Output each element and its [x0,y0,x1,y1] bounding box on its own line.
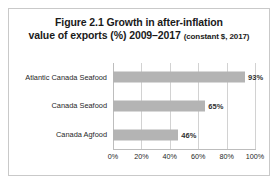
bar-atlantic-canada-seafood [113,72,245,83]
category-label-canada-seafood: Canada Seafood [52,92,107,121]
x-axis-tick-labels: 0%20%40%60%80%100% [113,152,255,166]
x-tick-label-100pct: 100% [246,152,264,161]
x-axis-line [113,149,256,150]
bar-value-canada-seafood: 65% [205,101,223,110]
bar-value-atlantic-canada-seafood: 93% [245,73,263,82]
bars-layer: 93% 65% 46% [113,63,255,149]
chart-title: Figure 2.1 Growth in after-inflation val… [9,16,269,43]
bar-value-canada-agfood: 46% [178,130,196,139]
figure-frame: Figure 2.1 Growth in after-inflation val… [8,8,270,176]
category-axis-labels: Atlantic Canada Seafood Canada Seafood C… [13,63,111,149]
chart-title-line-2: value of exports (%) 2009–2017 (constant… [9,29,269,43]
bar-canada-agfood [113,129,178,140]
category-label-canada-agfood: Canada Agfood [56,120,107,149]
bar-row: 46% [113,120,255,149]
x-tick-label-60pct: 60% [191,152,205,161]
chart-title-line-2-main: value of exports (%) 2009–2017 [29,29,181,41]
x-tick-label-0pct: 0% [108,152,118,161]
x-tick-label-40pct: 40% [163,152,177,161]
bar-row: 65% [113,92,255,121]
chart-title-line-1: Figure 2.1 Growth in after-inflation [9,16,269,29]
category-label-atlantic-canada-seafood: Atlantic Canada Seafood [25,63,107,92]
bar-row: 93% [113,63,255,92]
x-tick-label-20pct: 20% [134,152,148,161]
bar-canada-seafood [113,100,205,111]
plot-area: 93% 65% 46% [113,63,255,149]
chart-title-note: (constant $, 2017) [184,32,250,41]
x-tick-label-80pct: 80% [219,152,233,161]
